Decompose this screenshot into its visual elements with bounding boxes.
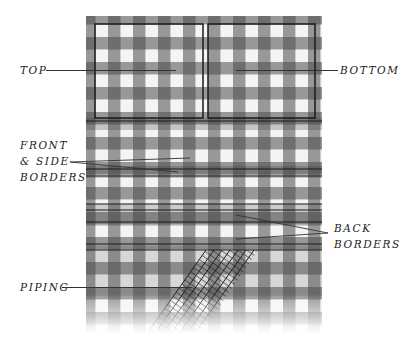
label-back-borders: BACK BORDERS [334, 222, 401, 251]
leader-piping [62, 287, 192, 288]
